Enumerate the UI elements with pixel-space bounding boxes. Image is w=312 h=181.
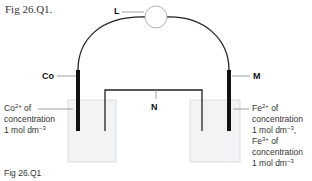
wire-right: [167, 17, 229, 70]
meter-l-icon: [145, 6, 167, 28]
m-electrode: [227, 70, 231, 131]
left-solution-label: Co2+ of concentration 1 mol dm−3: [4, 103, 55, 136]
label-l: L: [114, 6, 120, 16]
co-electrode: [76, 70, 80, 131]
left-beaker: [68, 100, 116, 162]
right-beaker: [190, 100, 240, 162]
wire-left: [78, 17, 145, 70]
figure-title: Fig 26.Q1.: [5, 3, 52, 15]
figure-caption: Fig 26.Q1: [4, 168, 41, 178]
label-n: N: [151, 102, 158, 112]
right-solution-label: Fe2+ of concentration 1 mol dm−3, Fe3+ o…: [252, 103, 303, 169]
label-co: Co: [42, 71, 54, 81]
label-m: M: [253, 71, 261, 81]
electrochemical-cell-diagram: Fig 26.Q1. L Co M N Co2+ of concentratio…: [0, 0, 312, 181]
